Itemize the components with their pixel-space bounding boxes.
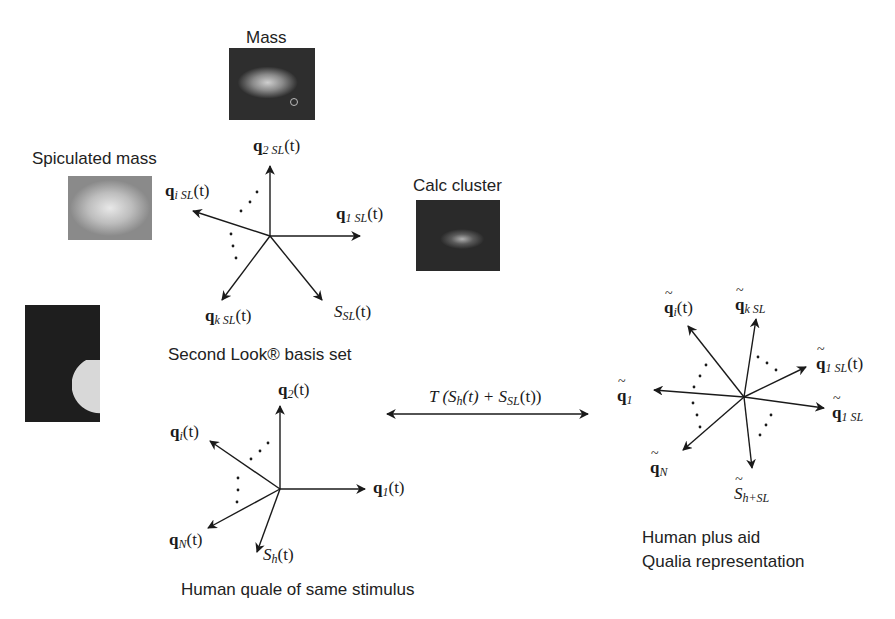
arrow-qisl — [193, 211, 270, 236]
label-ssl: SSL(t) — [334, 302, 371, 324]
arrow-ssl — [270, 236, 322, 300]
combined-caption-line1: Human plus aid — [642, 528, 760, 548]
arrow-qksl — [222, 236, 270, 300]
human-quale-caption: Human quale of same stimulus — [181, 580, 414, 600]
label-tqk: qk SL — [735, 295, 765, 317]
label-tS: Sh+SL — [734, 484, 769, 506]
label-tq1: q1 — [617, 386, 632, 408]
arrow-tq1sl — [744, 397, 824, 408]
label-tq1slt: q1 SL(t) — [816, 354, 863, 376]
label-qisl: qi SL(t) — [165, 181, 210, 203]
label-qi: qi(t) — [170, 422, 199, 444]
arrow-tq1slt — [744, 367, 806, 397]
label-sh: Sh(t) — [263, 545, 294, 567]
arrow-sh — [257, 489, 280, 552]
transform-label: T (Sh(t) + SSL(t)) — [429, 387, 542, 409]
arrow-tq1 — [654, 390, 744, 397]
arrow-qN — [208, 489, 280, 528]
label-tqN: qN — [650, 458, 667, 480]
label-q2sl: q2 SL(t) — [253, 136, 300, 158]
arrow-tqi — [688, 326, 744, 397]
combined-caption-line2: Qualia representation — [642, 552, 805, 572]
arrow-tqN — [683, 397, 744, 450]
arrow-tqk — [744, 319, 756, 397]
label-q2: q2(t) — [278, 380, 310, 402]
label-qN: qN(t) — [169, 530, 203, 552]
second-look-caption: Second Look® basis set — [168, 345, 352, 365]
label-q1: q1(t) — [373, 478, 405, 500]
arrow-tS — [744, 397, 752, 468]
label-qksl: qk SL(t) — [205, 306, 252, 328]
label-tq1sl: q1 SL — [832, 403, 863, 425]
arrow-qi — [210, 441, 280, 489]
label-q1sl: q1 SL(t) — [336, 204, 383, 226]
label-tqi: qi(t) — [664, 298, 693, 320]
